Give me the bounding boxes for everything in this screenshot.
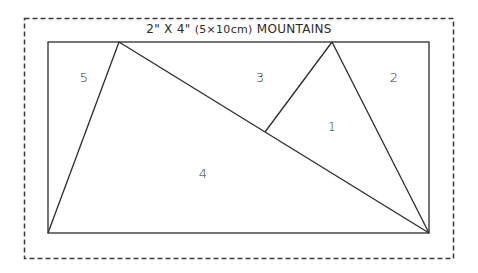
piece-line-3-1	[265, 42, 332, 132]
finished-block-outline	[48, 42, 429, 233]
pattern-title: 2" X 4" (5×10cm) MOUNTAINS	[0, 22, 478, 37]
piece-label-2: 2	[390, 70, 398, 85]
piece-line-diagonal	[119, 42, 429, 233]
pattern-lines	[0, 0, 478, 273]
title-name: MOUNTAINS	[257, 22, 332, 36]
title-metric: (5×10cm)	[195, 23, 253, 36]
piece-label-1: 1	[328, 119, 336, 134]
seam-allowance-dashed-border	[25, 19, 454, 259]
piece-label-3: 3	[256, 70, 264, 85]
piece-line-1-2	[332, 42, 429, 233]
piece-label-4: 4	[199, 166, 207, 181]
piece-label-5: 5	[80, 70, 88, 85]
pattern-diagram: 2" X 4" (5×10cm) MOUNTAINS 1 2 3 4 5	[0, 0, 478, 273]
title-size: 2" X 4"	[146, 22, 190, 36]
